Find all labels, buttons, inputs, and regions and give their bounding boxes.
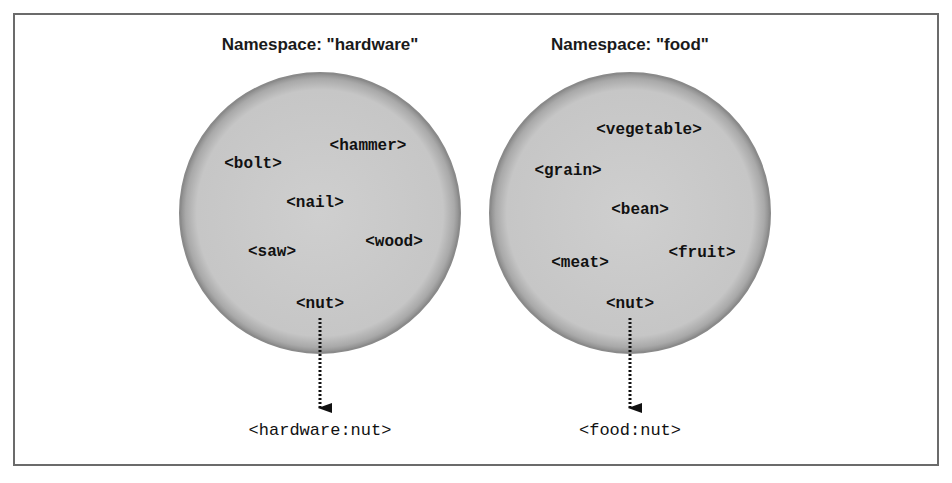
element-saw: <saw> — [248, 243, 296, 261]
element-meat: <meat> — [551, 254, 609, 272]
namespace-diagram: Namespace: "hardware" <hammer> <bolt> <n… — [0, 0, 952, 483]
namespace-title: Namespace: "hardware" — [222, 35, 419, 54]
namespace-title: Namespace: "food" — [551, 35, 709, 54]
element-vegetable: <vegetable> — [596, 121, 702, 139]
element-wood: <wood> — [365, 233, 423, 251]
namespace-hardware: Namespace: "hardware" <hammer> <bolt> <n… — [180, 35, 460, 440]
namespace-food: Namespace: "food" <vegetable> <grain> <b… — [490, 35, 770, 440]
element-bean: <bean> — [611, 201, 669, 219]
qualified-name: <food:nut> — [579, 421, 681, 440]
element-nut: <nut> — [606, 295, 654, 313]
element-nut: <nut> — [296, 295, 344, 313]
element-grain: <grain> — [534, 162, 601, 180]
element-nail: <nail> — [286, 194, 344, 212]
element-fruit: <fruit> — [668, 244, 735, 262]
qualified-name: <hardware:nut> — [249, 421, 392, 440]
element-bolt: <bolt> — [224, 155, 282, 173]
element-hammer: <hammer> — [330, 137, 407, 155]
